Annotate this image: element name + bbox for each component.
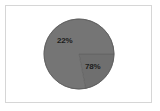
pie-slice-label-78: 78%: [85, 62, 100, 71]
pie-slice-label-22: 22%: [57, 36, 72, 45]
figure-root: 22% 78%: [0, 0, 160, 111]
pie-chart-plot-area: 22% 78%: [0, 0, 160, 111]
pie-chart-svg: [0, 0, 160, 111]
